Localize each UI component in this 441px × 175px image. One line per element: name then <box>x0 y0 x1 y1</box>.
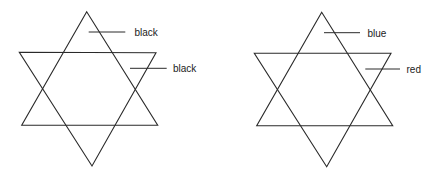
right-label-top: blue <box>368 28 387 39</box>
right-label-right: red <box>407 64 421 75</box>
left-star: black black <box>19 12 197 166</box>
left-down-triangle <box>19 52 156 166</box>
diagram-canvas: black black blue red <box>0 0 441 175</box>
left-label-right: black <box>173 63 197 74</box>
right-down-triangle <box>254 53 391 166</box>
right-star: blue red <box>254 12 421 166</box>
left-label-top: black <box>135 27 159 38</box>
